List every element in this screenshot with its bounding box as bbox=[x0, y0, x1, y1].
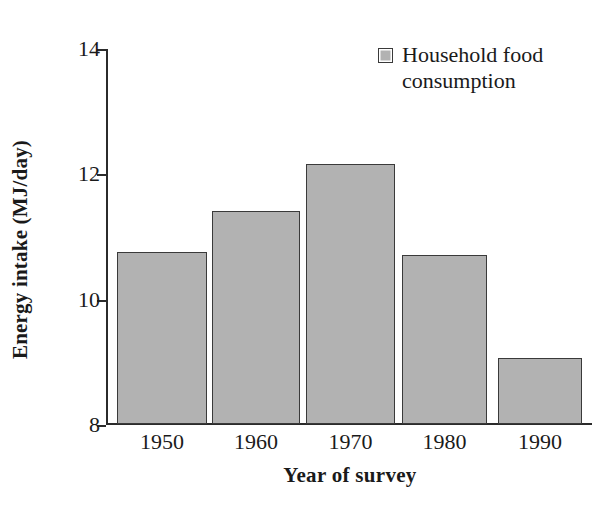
legend: Household food consumption bbox=[378, 42, 543, 94]
x-axis-title-text: Year of survey bbox=[283, 463, 416, 487]
y-tick-label: 10 bbox=[78, 289, 100, 311]
y-axis-line bbox=[106, 49, 108, 425]
x-tick-label: 1990 bbox=[498, 429, 582, 455]
x-tick-label: 1960 bbox=[212, 429, 300, 455]
bar-chart: Energy intake (MJ/day) 1412108 195019601… bbox=[0, 0, 613, 519]
bar bbox=[212, 211, 300, 424]
y-tick-label: 12 bbox=[78, 163, 100, 185]
bar bbox=[117, 252, 207, 424]
legend-label-line-1: Household food bbox=[402, 42, 543, 67]
bar bbox=[306, 164, 395, 424]
x-tick-label: 1980 bbox=[402, 429, 487, 455]
x-axis-title: Year of survey bbox=[110, 463, 590, 488]
plot-area: 1412108 19501960197019801990 bbox=[106, 49, 592, 425]
legend-item-label: Household food consumption bbox=[402, 42, 543, 94]
y-axis-title-text: Energy intake (MJ/day) bbox=[8, 140, 33, 359]
bar bbox=[402, 255, 487, 424]
bar bbox=[498, 358, 582, 424]
filled-square-icon bbox=[378, 48, 393, 63]
legend-label-line-2: consumption bbox=[402, 68, 516, 93]
y-tick-label: 8 bbox=[89, 414, 100, 436]
y-tick-label: 14 bbox=[78, 38, 100, 60]
y-axis-title: Energy intake (MJ/day) bbox=[0, 0, 40, 519]
x-tick-label: 1970 bbox=[306, 429, 395, 455]
x-tick-label: 1950 bbox=[117, 429, 207, 455]
